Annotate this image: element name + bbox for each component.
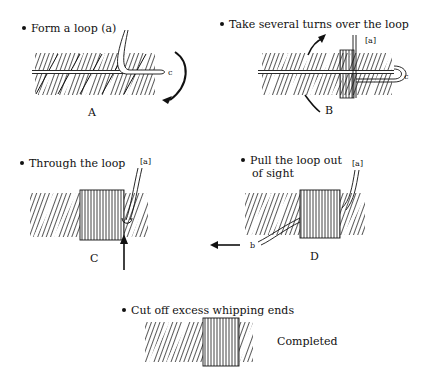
step-c-caption: Through the loop	[20, 157, 125, 170]
step-a-caption-text: Form a loop (a)	[31, 22, 116, 35]
bullet-icon	[22, 26, 26, 30]
step-d-label: D	[310, 250, 319, 263]
step-b-caption-text: Take several turns over the loop	[229, 18, 409, 31]
rope-a	[32, 30, 186, 104]
rope-c	[30, 168, 148, 270]
step-c-label: C	[90, 252, 98, 265]
bullet-icon	[220, 22, 224, 26]
bullet-icon	[122, 308, 126, 312]
rope-d	[210, 170, 365, 249]
marker-a-d: [a]	[352, 159, 363, 168]
rope-b	[258, 34, 406, 112]
marker-c-b: c	[404, 72, 408, 81]
step-c-caption-text: Through the loop	[29, 157, 125, 170]
marker-a-b: [a]	[365, 36, 376, 45]
step-a-caption: Form a loop (a)	[22, 22, 116, 35]
bullet-icon	[20, 161, 24, 165]
marker-b-d: b	[250, 241, 255, 250]
step-d-caption-line2: of sight	[252, 167, 294, 180]
step-e-caption: Cut off excess whipping ends	[122, 304, 294, 317]
step-a-label: A	[88, 106, 96, 119]
marker-a-c: [a]	[140, 157, 151, 166]
marker-c-a: c	[168, 68, 172, 77]
step-d-caption: Pull the loop outof sight	[241, 154, 342, 180]
step-d-caption-line1: Pull the loop out	[250, 154, 342, 167]
step-b-label: B	[325, 104, 333, 117]
step-b-caption: Take several turns over the loop	[220, 18, 409, 31]
step-e-caption-text: Cut off excess whipping ends	[131, 304, 294, 317]
completed-label: Completed	[277, 335, 338, 348]
bullet-icon	[241, 158, 245, 162]
rope-completed	[145, 318, 255, 366]
